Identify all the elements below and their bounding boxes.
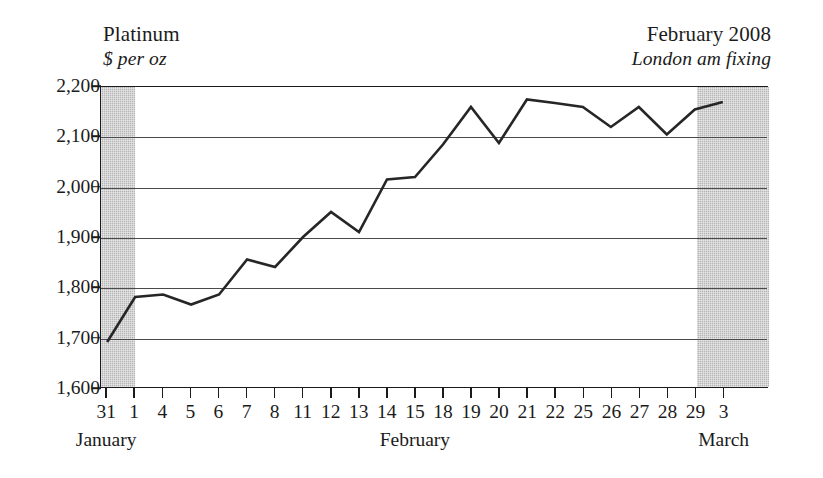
x-tick-mark [162,388,164,398]
chart-period-label: February 2008 [632,22,771,47]
x-tick-mark [611,388,613,398]
x-tick-mark [386,388,388,398]
x-tick-mark [498,388,500,398]
x-axis-month-label: January [76,429,137,451]
y-tick-label: 2,000 [14,176,100,198]
x-tick-mark [358,388,360,398]
x-tick-mark [695,388,697,398]
platinum-price-chart: Platinum $ per oz February 2008 London a… [0,0,823,478]
chart-source-label: London am fixing [632,47,771,70]
x-tick-label: 3 [719,401,729,423]
x-tick-mark [470,388,472,398]
x-tick-label: 27 [630,401,650,423]
x-tick-label: 5 [186,401,196,423]
x-tick-mark [218,388,220,398]
x-tick-label: 18 [433,401,453,423]
x-tick-label: 14 [377,401,397,423]
x-tick-mark [526,388,528,398]
x-tick-mark [414,388,416,398]
x-tick-label: 8 [270,401,280,423]
x-tick-mark [105,388,107,398]
chart-title: Platinum [103,22,180,47]
x-tick-label: 31 [96,401,116,423]
chart-title-block-left: Platinum $ per oz [103,22,180,70]
x-tick-mark [302,388,304,398]
y-tick-label: 2,100 [14,125,100,147]
chart-title-block-right: February 2008 London am fixing [632,22,771,70]
x-tick-mark [667,388,669,398]
series-polyline [107,99,723,342]
plot-area [100,86,768,388]
x-tick-mark [554,388,556,398]
x-axis: 311456781112131415181920212225262728293J… [0,388,823,478]
x-tick-label: 19 [461,401,481,423]
x-tick-label: 29 [686,401,706,423]
x-tick-label: 15 [405,401,425,423]
x-tick-label: 12 [321,401,341,423]
y-tick-label: 1,900 [14,226,100,248]
x-tick-mark [133,388,135,398]
x-tick-label: 25 [574,401,594,423]
x-tick-mark [190,388,192,398]
x-tick-label: 13 [349,401,369,423]
x-tick-label: 4 [157,401,167,423]
x-tick-label: 22 [546,401,566,423]
chart-subtitle-units: $ per oz [103,47,180,70]
x-tick-mark [723,388,725,398]
x-tick-label: 11 [293,401,312,423]
x-tick-mark [246,388,248,398]
series-line-platinum [101,87,767,387]
x-tick-label: 26 [602,401,622,423]
x-axis-month-label: March [698,429,749,451]
x-tick-mark [274,388,276,398]
x-tick-label: 21 [517,401,537,423]
x-tick-label: 20 [489,401,509,423]
x-tick-label: 7 [242,401,252,423]
y-tick-label: 1,700 [14,327,100,349]
y-tick-label: 1,800 [14,276,100,298]
x-tick-label: 6 [214,401,224,423]
x-tick-mark [330,388,332,398]
x-tick-mark [639,388,641,398]
y-tick-label: 2,200 [14,75,100,97]
x-axis-month-label: February [380,429,450,451]
x-tick-mark [583,388,585,398]
x-tick-label: 1 [129,401,139,423]
x-tick-label: 28 [658,401,678,423]
x-tick-mark [442,388,444,398]
